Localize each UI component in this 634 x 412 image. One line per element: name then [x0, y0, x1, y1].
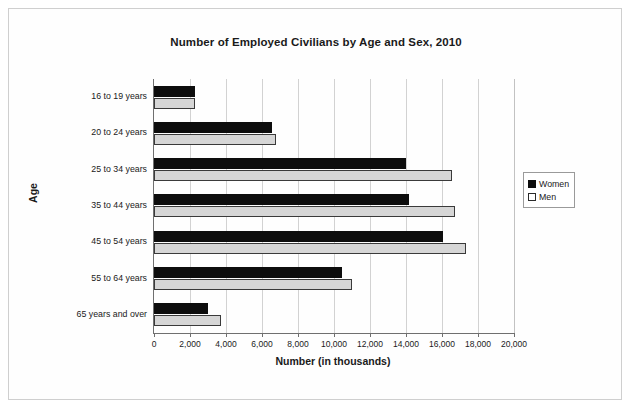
- bar-group: [154, 115, 514, 151]
- x-tick-mark: [226, 333, 227, 337]
- bar-women: [154, 267, 342, 278]
- chart-figure: Number of Employed Civilians by Age and …: [8, 8, 622, 400]
- legend-swatch-icon: [528, 180, 536, 188]
- x-tick-label: 18,000: [465, 339, 491, 349]
- bar-women: [154, 194, 409, 205]
- x-tick-mark: [370, 333, 371, 337]
- x-tick-label: 2,000: [179, 339, 200, 349]
- bar-group: [154, 224, 514, 260]
- y-tick-label: 65 years and over: [77, 309, 147, 319]
- x-axis-title: Number (in thousands): [153, 355, 513, 367]
- x-tick-label: 14,000: [393, 339, 419, 349]
- bar-group: [154, 152, 514, 188]
- x-tick-label: 4,000: [215, 339, 236, 349]
- x-tick-label: 10,000: [321, 339, 347, 349]
- x-tick-label: 6,000: [251, 339, 272, 349]
- y-tick-label: 20 to 24 years: [91, 127, 147, 137]
- plot-area: 02,0004,0006,0008,00010,00012,00014,0001…: [153, 79, 514, 334]
- bar-men: [154, 206, 455, 217]
- x-tick-label: 12,000: [357, 339, 383, 349]
- x-tick-mark: [190, 333, 191, 337]
- x-tick-label: 0: [152, 339, 157, 349]
- bar-women: [154, 231, 443, 242]
- bar-women: [154, 122, 272, 133]
- y-axis-tick-labels: 16 to 19 years20 to 24 years25 to 34 yea…: [9, 79, 147, 333]
- bar-men: [154, 98, 195, 109]
- y-tick-label: 45 to 54 years: [91, 236, 147, 246]
- gridline: [514, 79, 515, 333]
- bar-group: [154, 297, 514, 333]
- x-tick-label: 16,000: [429, 339, 455, 349]
- legend-swatch-icon: [528, 193, 536, 201]
- y-tick-label: 55 to 64 years: [91, 273, 147, 283]
- bar-women: [154, 303, 208, 314]
- x-tick-mark: [154, 333, 155, 337]
- bar-men: [154, 315, 221, 326]
- legend-item-men[interactable]: Men: [528, 190, 569, 203]
- chart-legend: WomenMen: [523, 172, 575, 208]
- legend-label: Women: [539, 179, 569, 189]
- y-tick-label: 16 to 19 years: [91, 91, 147, 101]
- x-tick-label: 20,000: [501, 339, 527, 349]
- bar-men: [154, 243, 466, 254]
- x-tick-mark: [334, 333, 335, 337]
- x-tick-mark: [514, 333, 515, 337]
- bar-group: [154, 79, 514, 115]
- x-tick-label: 8,000: [287, 339, 308, 349]
- bar-women: [154, 86, 195, 97]
- bar-men: [154, 134, 276, 145]
- bar-men: [154, 279, 352, 290]
- x-tick-mark: [406, 333, 407, 337]
- bar-group: [154, 260, 514, 296]
- chart-title: Number of Employed Civilians by Age and …: [9, 36, 623, 48]
- y-tick-label: 25 to 34 years: [91, 164, 147, 174]
- bar-men: [154, 170, 452, 181]
- legend-item-women[interactable]: Women: [528, 177, 569, 190]
- bar-group: [154, 188, 514, 224]
- bar-women: [154, 158, 406, 169]
- y-tick-label: 35 to 44 years: [91, 200, 147, 210]
- x-tick-mark: [442, 333, 443, 337]
- x-tick-mark: [262, 333, 263, 337]
- legend-label: Men: [539, 192, 556, 202]
- x-tick-mark: [478, 333, 479, 337]
- x-tick-mark: [298, 333, 299, 337]
